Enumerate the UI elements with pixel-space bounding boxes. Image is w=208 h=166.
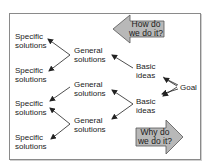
specific-solutions-4-line2: solutions xyxy=(15,142,47,151)
specific-solutions-node-2: Specific solutions xyxy=(15,66,47,84)
general-solutions-3-line2: solutions xyxy=(74,125,106,134)
specific-solutions-node-4: Specific solutions xyxy=(15,133,47,151)
how-arrow-label: How do we do it? xyxy=(128,20,164,38)
general-solutions-2-line2: solutions xyxy=(74,89,106,98)
general-solutions-3-line1: General xyxy=(74,116,106,125)
specific-solutions-2-line1: Specific xyxy=(15,66,47,75)
goal-node: Goal xyxy=(180,83,197,92)
specific-solutions-1-line1: Specific xyxy=(15,32,47,41)
general-solutions-1-line1: General xyxy=(74,46,106,55)
goal-label: Goal xyxy=(180,83,197,92)
why-arrow-label: Why do we do it? xyxy=(137,128,173,146)
basic-ideas-1-line1: Basic xyxy=(136,62,156,71)
specific-solutions-3-line2: solutions xyxy=(15,108,47,117)
general-solutions-node-1: General solutions xyxy=(74,46,106,64)
how-arrow-line2: we do it? xyxy=(128,29,164,38)
general-solutions-node-2: General solutions xyxy=(74,80,106,98)
basic-ideas-node-1: Basic ideas xyxy=(136,62,156,80)
basic-ideas-1-line2: ideas xyxy=(136,71,156,80)
why-arrow-line2: we do it? xyxy=(137,137,173,146)
basic-ideas-2-line2: ideas xyxy=(136,106,156,115)
basic-ideas-node-2: Basic ideas xyxy=(136,97,156,115)
general-solutions-1-line2: solutions xyxy=(74,55,106,64)
specific-solutions-4-line1: Specific xyxy=(15,133,47,142)
general-solutions-2-line1: General xyxy=(74,80,106,89)
specific-solutions-3-line1: Specific xyxy=(15,99,47,108)
specific-solutions-node-1: Specific solutions xyxy=(15,32,47,50)
specific-solutions-node-3: Specific solutions xyxy=(15,99,47,117)
basic-ideas-2-line1: Basic xyxy=(136,97,156,106)
specific-solutions-1-line2: solutions xyxy=(15,41,47,50)
general-solutions-node-3: General solutions xyxy=(74,116,106,134)
specific-solutions-2-line2: solutions xyxy=(15,75,47,84)
